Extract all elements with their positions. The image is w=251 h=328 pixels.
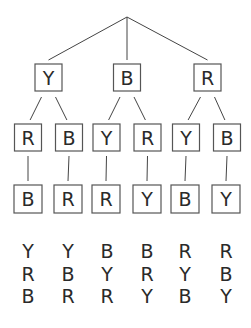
outcome-letter: B (61, 263, 74, 285)
edge-level1-level2 (188, 97, 200, 120)
outcome-column: BRY (140, 240, 153, 307)
outcome-column: BYR (100, 240, 113, 307)
edge-root-Y (49, 17, 128, 60)
edge-level1-level2 (109, 97, 120, 120)
outcome-column: RYB (178, 240, 191, 307)
node-label: B (21, 188, 34, 210)
outcome-letter: Y (178, 263, 191, 285)
outcome-letter: R (21, 263, 34, 285)
node-level1-R: R (194, 64, 221, 91)
outcome-letter: Y (100, 263, 113, 285)
edge-level1-level2 (215, 97, 225, 120)
node-level3-R: R (92, 185, 120, 213)
node-label: Y (42, 67, 55, 89)
node-label: Y (219, 188, 232, 210)
outcome-letter: R (140, 263, 153, 285)
edge-level2-level3 (68, 156, 69, 181)
nodes: YRBBRBYRRYRYBBY (14, 64, 241, 213)
node-label: B (62, 127, 75, 149)
edge-level2-level3 (106, 156, 107, 181)
outcome-letter: Y (140, 285, 153, 307)
node-label: R (201, 67, 214, 89)
node-level3-B: B (171, 185, 199, 213)
edge-level1-level2 (30, 97, 41, 120)
node-level3-B: B (14, 185, 42, 213)
node-label: B (120, 67, 133, 89)
edge-level2-level3 (185, 156, 186, 181)
edges (28, 17, 227, 181)
outcome-column: YBR (61, 240, 74, 307)
outcome-letter: Y (219, 285, 232, 307)
node-label: R (61, 188, 74, 210)
edge-level2-level3 (226, 156, 227, 181)
node-level3-R: R (54, 185, 82, 213)
node-level1-Y: Y (35, 64, 62, 91)
node-level2-R: R (134, 124, 161, 151)
outcome-list: YRBYBRBYRBRYRYBRBY (21, 240, 232, 307)
outcome-letter: B (100, 240, 113, 262)
node-label: B (178, 188, 191, 210)
outcome-letter: Y (21, 240, 34, 262)
node-label: R (141, 127, 154, 149)
outcome-letter: R (61, 285, 74, 307)
node-label: R (21, 127, 34, 149)
node-level2-B: B (214, 124, 241, 151)
outcome-letter: B (21, 285, 34, 307)
node-label: Y (100, 127, 113, 149)
outcome-letter: B (178, 285, 191, 307)
outcome-column: RBY (219, 240, 232, 307)
outcome-letter: R (100, 285, 113, 307)
outcome-column: YRB (21, 240, 34, 307)
outcome-letter: Y (61, 240, 74, 262)
outcome-letter: B (140, 240, 153, 262)
node-level2-Y: Y (93, 124, 120, 151)
node-label: Y (179, 127, 192, 149)
outcome-letter: B (219, 263, 232, 285)
node-label: R (99, 188, 112, 210)
outcome-letter: R (178, 240, 191, 262)
edge-level2-level3 (147, 156, 148, 181)
node-level3-Y: Y (133, 185, 161, 213)
node-label: B (220, 127, 233, 149)
node-level1-B: B (114, 64, 141, 91)
node-label: Y (140, 188, 153, 210)
node-level2-B: B (56, 124, 83, 151)
node-level3-Y: Y (212, 185, 240, 213)
outcome-letter: R (219, 240, 232, 262)
node-level2-Y: Y (173, 124, 200, 151)
edge-level1-level2 (134, 97, 145, 120)
tree-diagram: YRBBRBYRRYRYBBY YRBYBRBYRBRYRYBRBY (0, 0, 251, 328)
edge-level1-level2 (56, 97, 67, 120)
edge-root-R (127, 17, 208, 60)
node-level2-R: R (15, 124, 42, 151)
